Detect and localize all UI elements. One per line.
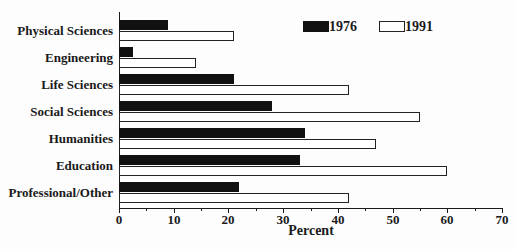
x-tick-label: 70 — [487, 213, 517, 227]
legend-label-1991: 1991 — [405, 19, 433, 34]
bar-1976 — [119, 74, 234, 84]
x-tick-label: 60 — [432, 213, 462, 227]
legend-swatch-1976 — [303, 21, 329, 32]
category-label: Social Sciences — [0, 103, 113, 120]
x-minor-tick — [475, 208, 476, 211]
x-tick-label: 30 — [268, 213, 298, 227]
x-tick-label: 10 — [159, 213, 189, 227]
x-tick-label: 20 — [213, 213, 243, 227]
category-label: Professional/Other — [0, 184, 113, 201]
bar-1991 — [119, 193, 349, 203]
bar-1991 — [119, 112, 420, 122]
category-label: Engineering — [0, 49, 113, 66]
bar-1976 — [119, 101, 272, 111]
bar-1991 — [119, 85, 349, 95]
bar-1976 — [119, 182, 239, 192]
bar-1991 — [119, 139, 376, 149]
x-minor-tick — [420, 208, 421, 211]
x-tick-label: 50 — [378, 213, 408, 227]
legend-swatch-1991 — [379, 21, 405, 32]
bar-1991 — [119, 31, 234, 41]
bar-1991 — [119, 166, 447, 176]
bar-1976 — [119, 47, 133, 57]
category-label: Physical Sciences — [0, 22, 113, 39]
x-minor-tick — [256, 208, 257, 211]
x-minor-tick — [146, 208, 147, 211]
x-tick-label: 0 — [104, 213, 134, 227]
bar-1976 — [119, 155, 300, 165]
x-minor-tick — [201, 208, 202, 211]
x-tick-label: 40 — [323, 213, 353, 227]
bar-chart-figure: Percent Physical SciencesEngineeringLife… — [0, 0, 517, 249]
category-label: Humanities — [0, 130, 113, 147]
bar-1991 — [119, 58, 196, 68]
bar-1976 — [119, 20, 168, 30]
x-minor-tick — [311, 208, 312, 211]
category-label: Education — [0, 157, 113, 174]
legend-label-1976: 1976 — [329, 19, 357, 34]
x-minor-tick — [365, 208, 366, 211]
bar-1976 — [119, 128, 305, 138]
category-label: Life Sciences — [0, 76, 113, 93]
